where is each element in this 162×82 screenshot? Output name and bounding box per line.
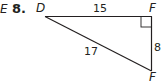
triangle-figure: E 8. D F F 15 8 17 bbox=[0, 0, 162, 82]
side-length-hypotenuse: 17 bbox=[84, 46, 98, 58]
vertex-label-d: D bbox=[36, 2, 45, 14]
side-length-right: 8 bbox=[154, 42, 161, 54]
side-length-top: 15 bbox=[93, 3, 107, 15]
right-triangle-shape bbox=[0, 0, 162, 82]
vertex-label-f-top: F bbox=[149, 2, 156, 14]
vertex-label-f-bottom: F bbox=[149, 71, 156, 82]
hypotenuse-line bbox=[45, 17, 152, 72]
right-angle-marker-icon bbox=[141, 17, 152, 28]
